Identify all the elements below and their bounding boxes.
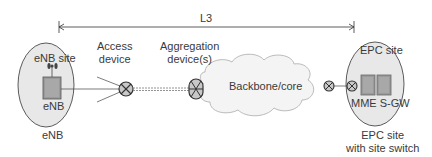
access-router-icon xyxy=(119,82,133,96)
enb-caption: eNB xyxy=(42,129,63,142)
epc-node-labels: MME S-GW xyxy=(351,97,410,110)
enb-site-title: eNB site xyxy=(34,52,76,65)
aggregation-link xyxy=(133,88,189,91)
aggregation-device-label: Aggregation device(s) xyxy=(160,40,219,66)
access-device-label: Access device xyxy=(97,40,132,66)
l3-label: L3 xyxy=(200,12,212,25)
site-switch-icon xyxy=(347,81,357,91)
backbone-label: Backbone/core xyxy=(229,80,302,93)
backbone-router-icon xyxy=(324,81,334,91)
epc-site-title: EPC site xyxy=(360,44,403,57)
epc-caption: EPC site with site switch xyxy=(346,129,419,155)
enb-node-label: eNB xyxy=(43,100,64,113)
aggregation-router-icon xyxy=(189,79,203,99)
